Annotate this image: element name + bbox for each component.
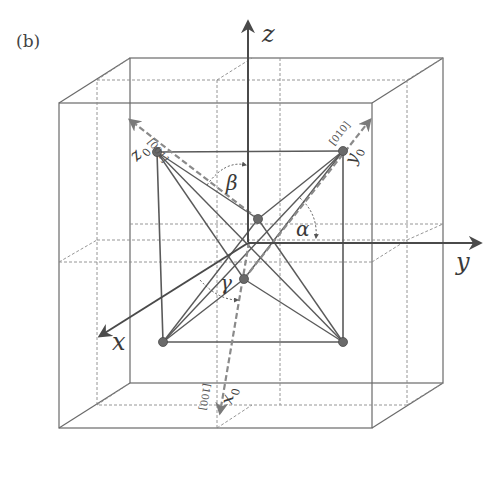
- svg-text:0: 0: [229, 387, 243, 396]
- z0-axis: [130, 120, 258, 219]
- y-axis-label: y: [455, 248, 470, 276]
- svg-text:[100]: [100]: [197, 383, 213, 411]
- atom-center-lower: [240, 275, 249, 284]
- crystal-orientation-diagram: (b): [0, 0, 504, 477]
- x0-direction-label: [100]: [197, 383, 213, 411]
- beta-label: β: [225, 171, 238, 195]
- atom-center-upper: [254, 215, 263, 224]
- gamma-label: γ: [220, 271, 232, 295]
- x-axis-label: x: [112, 328, 126, 356]
- y0-direction-label: [010]: [327, 119, 352, 147]
- alpha-label: α: [296, 217, 310, 241]
- svg-text:[010]: [010]: [327, 119, 352, 147]
- y0-axis: [244, 120, 370, 279]
- main-axes: [100, 22, 480, 336]
- panel-label: (b): [16, 31, 40, 51]
- atom-bottom-left: [159, 338, 168, 347]
- z-axis-label: z: [261, 20, 275, 48]
- diagonals: [157, 151, 343, 342]
- x0-label: x 0: [216, 385, 243, 406]
- x0-axis: [220, 242, 249, 413]
- atom-bottom-right: [339, 338, 348, 347]
